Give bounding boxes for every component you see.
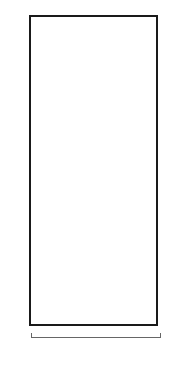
- repeat-bracket: [31, 333, 161, 338]
- knitting-chart-grid: [29, 15, 158, 326]
